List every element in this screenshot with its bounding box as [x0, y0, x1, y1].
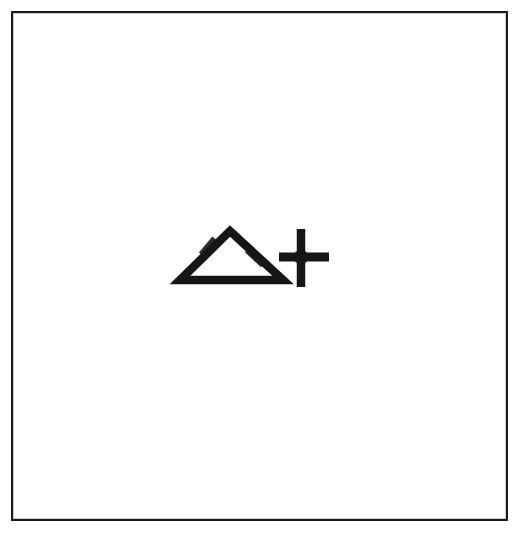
triangle-left-edge-thickening — [203, 240, 217, 256]
border-rectangle — [11, 11, 508, 521]
symbol-drawing — [13, 13, 510, 523]
plus-center-junction — [296, 252, 307, 263]
triangle-outline-icon — [180, 231, 283, 280]
figure-drawing-area — [13, 13, 510, 523]
triangle-path — [180, 231, 283, 280]
triangle-right-edge-thickening — [248, 249, 264, 264]
figure-page: △ + △+ — [0, 0, 523, 537]
